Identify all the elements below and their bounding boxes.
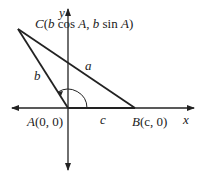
triangle-diagram: y x C(b cos A, b sin A) A(0, 0) B(c, 0) … [0,0,202,176]
side-c-label: c [100,112,106,127]
x-axis-label: x [182,112,189,127]
point-B-label: B(c, 0) [132,114,167,129]
point-A-label: A(0, 0) [26,114,63,129]
point-C-label: C(b cos A, b sin A) [35,16,133,31]
side-b [18,29,68,108]
side-b-label: b [34,68,41,83]
side-a-label: a [85,58,92,73]
